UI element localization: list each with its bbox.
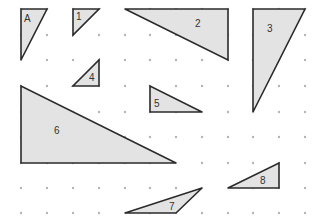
dot-grid-canvas: A12345678 [0,0,321,220]
triangle-label: 5 [154,98,160,109]
triangle-label: A [24,13,31,24]
grid-dot [72,212,74,214]
grid-dot [304,162,306,164]
triangle-shape [253,9,305,112]
grid-dot [149,187,151,189]
triangle-8: 8 [228,163,279,188]
grid-dot [227,162,229,164]
triangle-label: 4 [89,72,95,83]
triangle-label: 2 [195,18,201,29]
grid-dot [201,136,203,138]
grid-dot [278,212,280,214]
grid-dot [175,59,177,61]
grid-dot [304,212,306,214]
triangle-5: 5 [150,86,202,112]
triangle-shape [125,188,202,213]
grid-dot [227,85,229,87]
triangle-4: 4 [73,60,99,86]
grid-dot [72,187,74,189]
grid-dot [98,111,100,113]
grid-dot [278,111,280,113]
grid-dot [98,212,100,214]
grid-dot [201,212,203,214]
grid-dot [201,162,203,164]
grid-dot [304,187,306,189]
grid-dot [201,59,203,61]
grid-dot [46,85,48,87]
triangle-grid-diagram: A12345678 [0,0,321,220]
grid-dot [46,59,48,61]
grid-dot [304,34,306,36]
triangle-label: 8 [260,175,266,186]
grid-dot [227,136,229,138]
triangle-a: A [21,9,47,60]
grid-dot [20,212,22,214]
grid-dot [98,34,100,36]
grid-dot [149,34,151,36]
triangle-label: 6 [54,125,60,136]
triangle-label: 3 [267,23,273,34]
grid-dot [304,59,306,61]
triangle-2: 2 [125,9,228,60]
grid-dot [124,34,126,36]
grid-dot [124,59,126,61]
grid-dot [278,136,280,138]
grid-dot [46,187,48,189]
grid-dot [20,187,22,189]
triangle-shape [125,9,228,60]
grid-dot [46,34,48,36]
grid-dot [278,85,280,87]
grid-dot [175,187,177,189]
triangle-label: 1 [76,11,82,22]
triangle-shape [73,60,99,86]
grid-dot [46,212,48,214]
grid-dot [304,85,306,87]
grid-dot [124,187,126,189]
grid-dot [201,85,203,87]
grid-dot [98,187,100,189]
triangle-3: 3 [253,9,305,112]
triangle-7: 7 [125,188,202,213]
triangle-1: 1 [73,9,99,35]
grid-dot [72,59,74,61]
grid-dot [124,111,126,113]
grid-dot [304,136,306,138]
grid-dot [252,136,254,138]
triangle-shape [228,163,279,188]
grid-dot [149,59,151,61]
grid-dot [252,162,254,164]
grid-dot [124,85,126,87]
grid-dot [227,212,229,214]
grid-dot [175,85,177,87]
grid-dot [252,212,254,214]
grid-dot [304,111,306,113]
grid-dot [175,136,177,138]
triangle-label: 7 [169,201,175,212]
triangles: A12345678 [21,9,305,213]
grid-dot [149,136,151,138]
grid-dot [227,111,229,113]
